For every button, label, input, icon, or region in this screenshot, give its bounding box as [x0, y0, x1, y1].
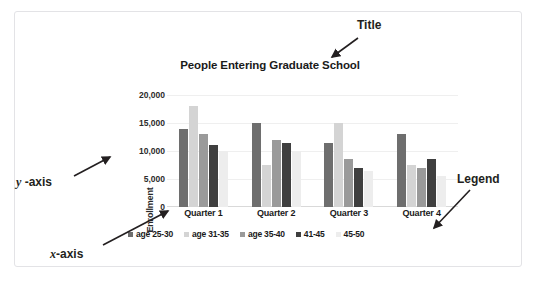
arrow-y-axis: [74, 157, 110, 176]
arrow-title: [332, 38, 358, 57]
callout-arrows: [0, 0, 540, 282]
arrow-x-axis: [103, 211, 168, 245]
arrow-legend: [434, 190, 470, 228]
figure-root: · · · · · · People Entering Graduate Sch…: [0, 0, 540, 282]
